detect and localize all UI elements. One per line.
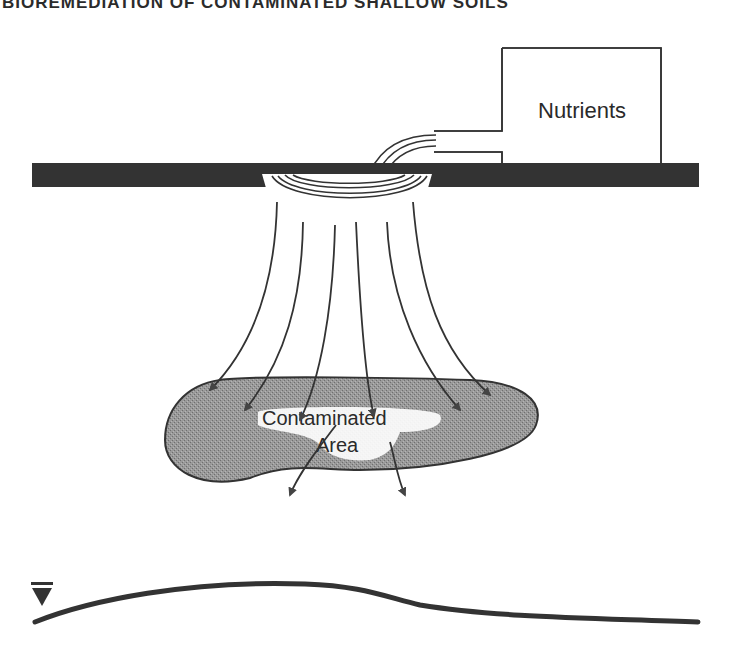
arrow-down-icon xyxy=(210,202,277,390)
water-table-line xyxy=(35,583,698,622)
contaminated-label-line1: Contaminated xyxy=(262,407,387,429)
arrow-down-icon xyxy=(413,202,490,395)
contaminated-label-line2: Area xyxy=(316,434,359,456)
water-table-symbol-icon xyxy=(31,582,53,606)
ground-surface xyxy=(32,163,699,188)
nutrients-label: Nutrients xyxy=(538,98,626,123)
water-table xyxy=(31,582,698,622)
contaminated-zone: Contaminated Area xyxy=(165,377,538,481)
nutrient-tank: Nutrients xyxy=(434,48,661,163)
bioremediation-diagram: Nutrients Contaminated Area xyxy=(0,0,735,669)
